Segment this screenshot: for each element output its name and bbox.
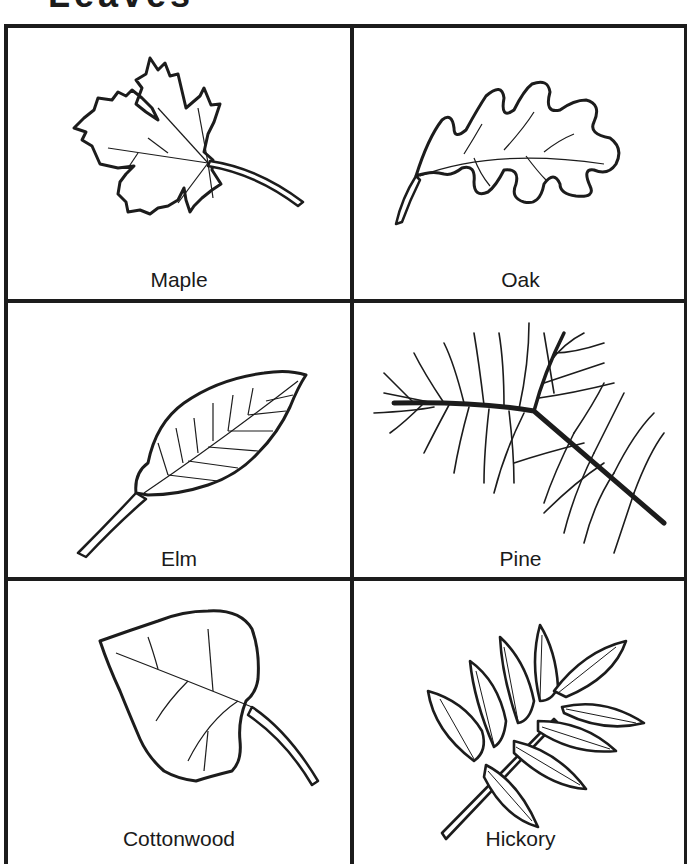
- elm-leaf-icon: [8, 303, 350, 577]
- leaf-cell-cottonwood: Cottonwood: [8, 581, 350, 868]
- leaf-cell-hickory: Hickory: [354, 581, 687, 868]
- pine-branch-icon: [354, 303, 687, 577]
- leaf-cell-maple: Maple: [8, 28, 350, 299]
- leaf-label-maple: Maple: [8, 268, 350, 292]
- leaf-cell-oak: Oak: [354, 28, 687, 299]
- leaf-label-oak: Oak: [354, 268, 687, 292]
- leaf-label-pine: Pine: [354, 547, 687, 571]
- leaf-label-hickory: Hickory: [354, 827, 687, 851]
- leaf-cell-elm: Elm: [8, 303, 350, 577]
- leaf-label-elm: Elm: [8, 547, 350, 571]
- page-title: Leaves: [48, 0, 194, 8]
- maple-leaf-icon: [8, 28, 350, 299]
- hickory-leaf-icon: [354, 581, 687, 868]
- leaf-grid: Maple Oak: [4, 24, 687, 864]
- leaf-label-cottonwood: Cottonwood: [8, 827, 350, 851]
- cottonwood-leaf-icon: [8, 581, 350, 868]
- oak-leaf-icon: [354, 28, 687, 299]
- leaf-cell-pine: Pine: [354, 303, 687, 577]
